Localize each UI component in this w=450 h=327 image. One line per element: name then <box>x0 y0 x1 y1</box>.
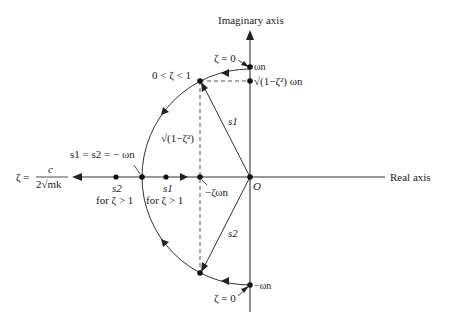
point-critical <box>139 174 145 180</box>
s2-real-label: s2 <box>112 183 122 194</box>
point-neg-zeta-omega <box>197 174 203 180</box>
imaginary-axis-label: Imaginary axis <box>218 15 284 26</box>
arc-arrow-bottom-icon <box>221 277 229 285</box>
s1-vector-label: s1 <box>228 116 238 127</box>
neg-omega-n-label: −ωn <box>254 281 271 291</box>
arc-arrow-lower-icon <box>161 239 169 247</box>
zeta-definition-lhs: ζ = <box>16 172 30 183</box>
real-axis-left-arrow-icon <box>72 173 82 181</box>
arc-arrow-top-icon <box>221 69 229 77</box>
s2-condition-label: for ζ > 1 <box>96 195 133 206</box>
zeta-zero-bottom-label: ζ = 0 <box>214 293 236 304</box>
root-locus-diagram <box>0 0 450 327</box>
arc-arrow-upper-icon <box>161 107 169 115</box>
omega-n-label: ωn <box>254 62 266 72</box>
s1-condition-label: for ζ > 1 <box>146 195 183 206</box>
vector-s2-arrow-icon <box>201 262 208 272</box>
s2-vector-label: s2 <box>228 228 238 239</box>
underdamped-label: 0 < ζ < 1 <box>152 70 191 81</box>
origin-label: O <box>253 181 261 192</box>
vector-s1-arrow-icon <box>201 82 208 92</box>
sqrt-omega-label: √(1−ζ²) ωn <box>254 76 302 87</box>
point-s1-upper <box>197 78 203 84</box>
sqrt-vertical-label: √(1−ζ²) <box>161 133 194 144</box>
point-origin <box>247 174 253 180</box>
imaginary-axis-arrow-icon <box>246 30 254 40</box>
neg-zeta-omega-label: −ζωn <box>205 187 228 198</box>
zeta-definition-denominator: 2√mk <box>36 179 62 190</box>
point-omega-n <box>247 64 253 70</box>
point-s2-lower <box>197 270 203 276</box>
point-sqrt-omega <box>247 78 253 84</box>
vector-s1 <box>204 87 250 177</box>
zeta-zero-top-label: ζ = 0 <box>214 53 236 64</box>
point-neg-omega-n <box>247 282 253 288</box>
point-s1-real <box>163 174 168 179</box>
s1-real-label: s1 <box>163 183 173 194</box>
zeta-definition-numerator: c <box>48 164 53 175</box>
point-s2-real <box>113 174 118 179</box>
real-axis-label: Real axis <box>390 172 431 183</box>
critical-damping-label: s1 = s2 = − ωn <box>70 149 135 160</box>
real-arrow-icon <box>180 173 188 181</box>
